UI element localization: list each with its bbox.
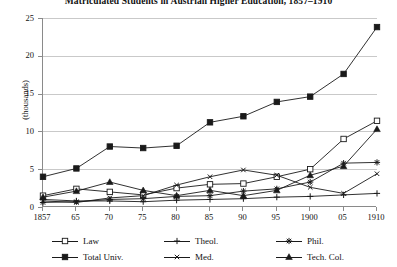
x-axis-tick-mark	[42, 207, 43, 211]
legend-item-theol[interactable]: Theol.	[164, 233, 276, 248]
filled-square-marker	[74, 166, 79, 171]
series-total-univ	[40, 24, 379, 179]
y-axis-tick-label: 10	[8, 127, 34, 135]
open-square-marker	[241, 181, 246, 186]
chart-legend: LawTheol.Phil.Total Univ.Med.Tech. Col.	[52, 233, 388, 265]
filled-square-marker	[40, 174, 45, 179]
filled-square-marker	[241, 114, 246, 119]
filled-triangle-marker	[286, 253, 293, 259]
chart-title: Matriculated Students in Austrian Higher…	[0, 0, 397, 7]
x-axis-tick-mark	[242, 207, 243, 211]
x-axis-tick-mark	[109, 207, 110, 211]
plot-area	[42, 18, 376, 207]
filled-square-marker	[141, 145, 146, 150]
legend-label: Theol.	[195, 236, 218, 246]
x-axis-tick-mark	[75, 207, 76, 211]
open-square-marker	[174, 185, 179, 190]
legend-marker-filled-square	[52, 252, 78, 262]
plus-marker	[73, 198, 79, 204]
y-axis-tick-label: 15	[8, 89, 34, 97]
x-axis-tick-mark	[376, 207, 377, 211]
legend-label: Med.	[195, 252, 214, 262]
legend-marker-asterisk	[276, 236, 302, 246]
legend-label: Total Univ.	[83, 252, 123, 262]
x-axis-tick-mark	[209, 207, 210, 211]
legend-item-tech[interactable]: Tech. Col.	[276, 249, 388, 264]
plus-marker	[140, 199, 146, 205]
filled-square-marker	[62, 254, 67, 259]
legend-marker-open-square	[52, 236, 78, 246]
cross-marker	[175, 254, 179, 258]
asterisk-marker	[274, 186, 280, 192]
open-square-marker	[107, 189, 112, 194]
legend-label: Phil.	[307, 236, 324, 246]
open-square-marker	[374, 118, 379, 123]
y-axis-tick-label: 20	[8, 51, 34, 59]
legend-label: Law	[83, 236, 99, 246]
filled-square-marker	[374, 24, 379, 29]
open-square-marker	[62, 238, 67, 243]
asterisk-marker	[341, 160, 347, 166]
y-axis-tick-label: 0	[8, 203, 34, 211]
data-series-layer	[43, 18, 377, 207]
plus-marker	[274, 194, 280, 200]
open-square-marker	[207, 182, 212, 187]
legend-marker-plus	[164, 236, 190, 246]
filled-square-marker	[308, 94, 313, 99]
chart-figure: Matriculated Students in Austrian Higher…	[0, 0, 397, 267]
asterisk-marker	[374, 159, 380, 165]
plus-marker	[307, 193, 313, 199]
legend-label: Tech. Col.	[307, 252, 344, 262]
series-tech-col	[40, 126, 381, 200]
y-axis-tick-label: 25	[8, 14, 34, 22]
asterisk-marker	[286, 237, 292, 243]
x-axis-tick-mark	[343, 207, 344, 211]
plus-marker	[107, 198, 113, 204]
y-axis-tick-label: 5	[8, 165, 34, 173]
plus-marker	[374, 190, 380, 196]
legend-marker-filled-triangle	[276, 252, 302, 262]
legend-item-total[interactable]: Total Univ.	[52, 249, 164, 264]
x-axis-tick-mark	[276, 207, 277, 211]
legend-row: LawTheol.Phil.	[52, 233, 388, 248]
filled-square-marker	[341, 71, 346, 76]
cross-marker	[375, 172, 379, 176]
asterisk-marker	[307, 179, 313, 185]
filled-square-marker	[174, 143, 179, 148]
legend-marker-cross	[164, 252, 190, 262]
filled-triangle-marker	[374, 126, 381, 132]
x-axis-tick-mark	[142, 207, 143, 211]
filled-square-marker	[107, 144, 112, 149]
x-axis-tick-mark	[176, 207, 177, 211]
plus-marker	[174, 237, 180, 243]
legend-item-med[interactable]: Med.	[164, 249, 276, 264]
filled-triangle-marker	[207, 187, 214, 193]
legend-row: Total Univ.Med.Tech. Col.	[52, 249, 388, 264]
open-square-marker	[341, 136, 346, 141]
legend-item-law[interactable]: Law	[52, 233, 164, 248]
x-axis-tick-label: 1910	[356, 212, 396, 222]
legend-item-phil[interactable]: Phil.	[276, 233, 388, 248]
filled-square-marker	[274, 99, 279, 104]
open-square-marker	[308, 167, 313, 172]
filled-triangle-marker	[107, 179, 114, 185]
x-axis-tick-mark	[309, 207, 310, 211]
asterisk-marker	[240, 188, 246, 194]
filled-square-marker	[207, 120, 212, 125]
